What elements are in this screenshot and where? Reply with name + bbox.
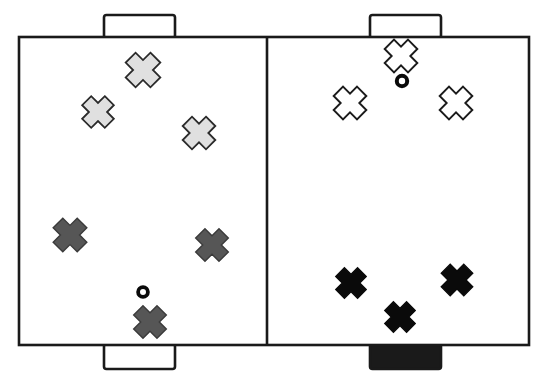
court-diagram-svg [0,0,547,382]
top-right-goal [370,15,441,38]
bottom-left-goal [104,344,175,369]
playing-court [19,37,529,345]
court-layer [19,37,529,345]
bottom-right-goal [370,344,441,369]
top-left-goal [104,15,175,38]
court-diagram [0,0,547,382]
